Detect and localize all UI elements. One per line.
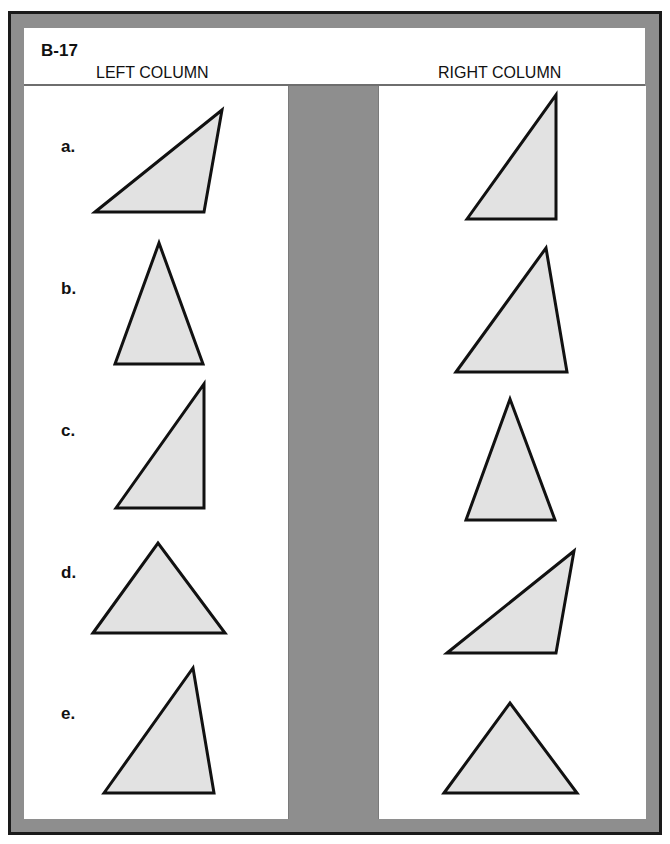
row-label-a: a. <box>61 137 75 157</box>
row-label-c: c. <box>61 421 75 441</box>
left-column-title: LEFT COLUMN <box>96 64 209 82</box>
row-label-d: d. <box>61 563 76 583</box>
row-label-e: e. <box>61 704 75 724</box>
worksheet-header: B-17 LEFT COLUMN RIGHT COLUMN <box>24 28 645 86</box>
worksheet-code: B-17 <box>41 41 78 61</box>
row-label-b: b. <box>61 279 76 299</box>
right-column-title: RIGHT COLUMN <box>438 64 561 82</box>
right-column-panel <box>378 86 646 819</box>
